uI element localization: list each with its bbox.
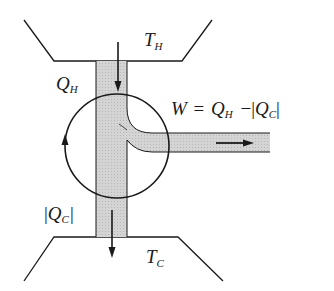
cold-reservoir-outline: [24, 237, 223, 281]
cycle-direction-arrow-icon: [62, 134, 69, 145]
hot-reservoir-label: TH: [144, 29, 164, 52]
heat-out-label: |QC|: [44, 203, 74, 225]
work-equation-label: W = QH −|QC|: [171, 98, 280, 122]
energy-flow-band: [96, 61, 270, 237]
heat-in-label: QH: [56, 73, 79, 95]
heat-engine-diagram: TH QH W = QH −|QC| |QC| TC: [0, 0, 334, 291]
cold-reservoir-label: TC: [146, 246, 165, 269]
